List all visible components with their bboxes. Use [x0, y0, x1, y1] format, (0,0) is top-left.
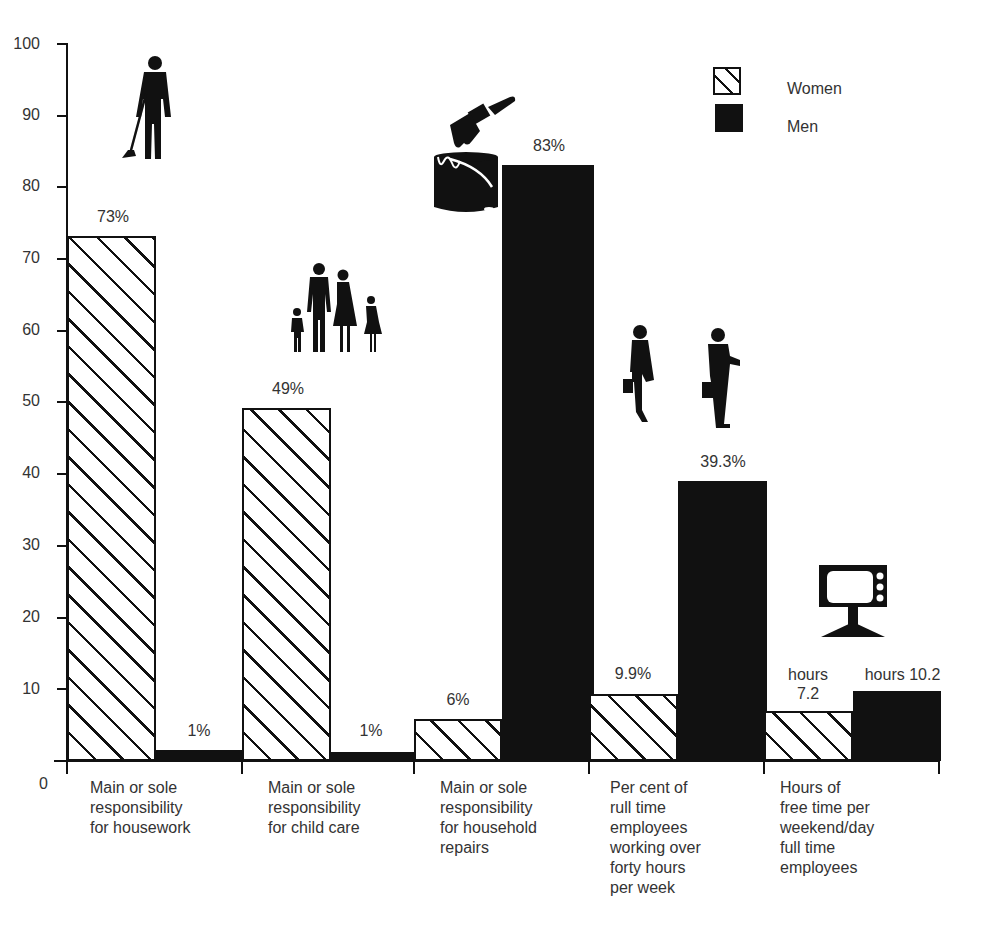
category-label: Hours of free time per weekend/day full … — [780, 778, 874, 878]
legend-label-men: Men — [787, 118, 818, 136]
category-label: Per cent of rull time employees working … — [610, 778, 701, 898]
y-tick-label: 80 — [0, 177, 40, 195]
category-label: Main or sole responsibility for child ca… — [268, 778, 360, 838]
y-tick-label: 30 — [0, 536, 40, 554]
value-label: 83% — [516, 136, 582, 155]
y-tick-label: 70 — [0, 249, 40, 267]
television-icon — [817, 563, 889, 639]
family-icon — [285, 262, 385, 354]
bar-men-overtime — [678, 481, 767, 761]
person-sweeping-icon — [120, 54, 180, 166]
y-tick-label: 90 — [0, 106, 40, 124]
legend-swatch-women — [713, 67, 741, 95]
value-label: 1% — [166, 721, 232, 740]
value-label: 1% — [338, 721, 404, 740]
value-label: 39.3% — [685, 452, 761, 471]
value-label: hours 7.2 — [775, 665, 841, 703]
category-label: Main or sole responsibility for househol… — [440, 778, 537, 858]
legend-label-women: Women — [787, 80, 842, 98]
y-tick-label: 100 — [0, 35, 40, 53]
value-label: 9.9% — [600, 664, 666, 683]
value-label: 49% — [255, 379, 321, 398]
bar-women-housework — [67, 236, 156, 761]
bar-men-childcare — [331, 752, 414, 761]
bar-women-overtime — [589, 694, 678, 761]
commuters-with-briefcases-icon — [620, 322, 745, 434]
category-label: Main or sole responsibility for housewor… — [90, 778, 191, 838]
y-tick-label: 10 — [0, 680, 40, 698]
bar-men-freetime — [853, 691, 941, 761]
paint-bucket-brush-icon — [430, 95, 520, 215]
chart: 100 90 80 70 60 50 40 30 20 10 0 73% 1% … — [0, 0, 989, 938]
y-tick-label: 0 — [8, 775, 48, 793]
bar-men-repairs — [502, 165, 594, 761]
y-tick-label: 60 — [0, 321, 40, 339]
value-label: 73% — [80, 207, 146, 226]
legend-swatch-men — [715, 104, 743, 132]
bar-women-freetime — [764, 711, 853, 761]
bar-men-housework — [156, 750, 242, 761]
bar-women-childcare — [242, 408, 331, 761]
y-tick-label: 40 — [0, 464, 40, 482]
value-label: 6% — [425, 690, 491, 709]
y-tick-label: 50 — [0, 392, 40, 410]
y-tick-label: 20 — [0, 608, 40, 626]
bar-women-repairs — [414, 719, 502, 761]
value-label: hours 10.2 — [850, 665, 955, 684]
